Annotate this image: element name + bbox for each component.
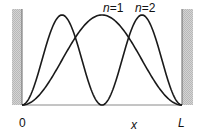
n-symbol: n <box>103 1 110 15</box>
end-label: L <box>178 117 185 129</box>
left-wall <box>12 9 22 105</box>
curve-label-n2: n=2 <box>135 2 155 14</box>
curve-n1 <box>22 15 182 105</box>
n-symbol: n <box>135 1 142 15</box>
x-axis-label: x <box>131 119 137 131</box>
particle-in-box-diagram <box>0 0 201 135</box>
curve-n2 <box>22 15 182 105</box>
n-value: =2 <box>142 1 156 15</box>
right-wall <box>182 9 193 105</box>
origin-label: 0 <box>19 117 26 129</box>
n-value: =1 <box>110 1 124 15</box>
curve-label-n1: n=1 <box>103 2 123 14</box>
